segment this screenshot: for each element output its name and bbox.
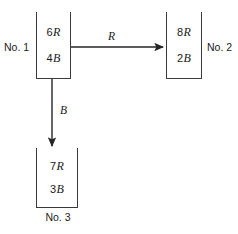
urn-no-2-red-symbol: R — [183, 25, 191, 39]
urn-no-3-contents: 7R 3B — [37, 148, 77, 207]
urn-no-2-black-count: 2B — [177, 52, 191, 64]
urn-no-2: 8R 2B — [166, 12, 202, 79]
urn-no-1-red-count: 6R — [47, 26, 61, 38]
urn-no-1-contents: 6R 4B — [37, 12, 70, 78]
arrow-label-black: B — [60, 105, 67, 117]
urn-no-3-red-symbol: R — [56, 159, 64, 173]
urn-no-1-red-symbol: R — [53, 25, 61, 39]
urn-no-2-contents: 8R 2B — [167, 12, 201, 78]
diagram-canvas: 6R 4B No. 1 8R 2B No. 2 7R 3B No. 3 R B — [0, 0, 238, 234]
urn-no-2-black-symbol: B — [183, 51, 191, 65]
urn-no-1-black-symbol: B — [53, 51, 61, 65]
urn-no-2-red-count: 8R — [177, 26, 191, 38]
urn-no-1-label: No. 1 — [4, 42, 29, 53]
urn-no-1: 6R 4B — [36, 12, 71, 79]
urn-no-3-red-count: 7R — [50, 160, 64, 172]
urn-no-3-label: No. 3 — [37, 212, 79, 223]
urn-no-3-black-count: 3B — [50, 183, 64, 195]
arrow-label-red: R — [108, 31, 115, 43]
urn-no-1-black-count: 4B — [47, 52, 61, 64]
urn-no-3-black-symbol: B — [56, 182, 64, 196]
urn-no-2-label: No. 2 — [207, 42, 232, 53]
urn-no-3: 7R 3B — [36, 148, 78, 208]
